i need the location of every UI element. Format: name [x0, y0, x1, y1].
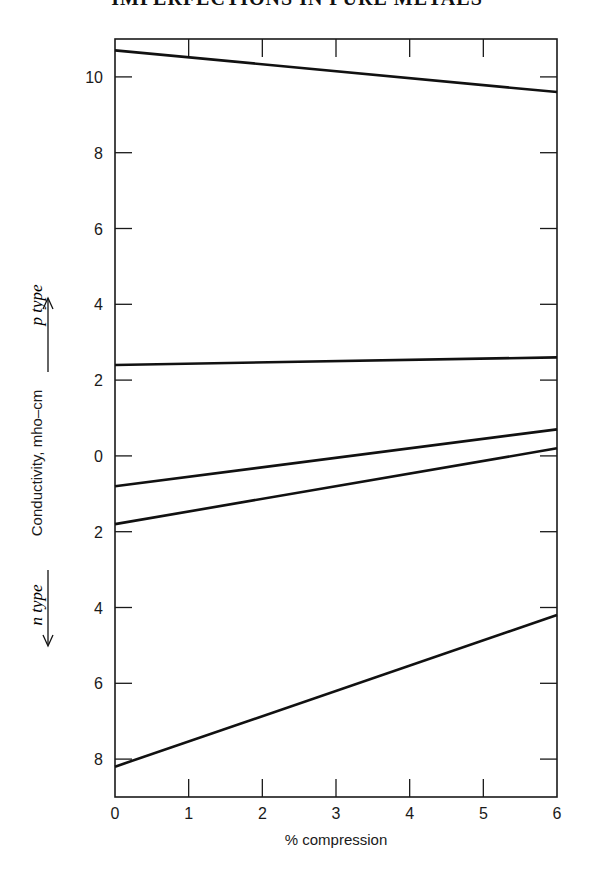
y-tick-label: 4 [94, 600, 103, 617]
y-tick-label: 2 [94, 524, 103, 541]
y-tick-label: 8 [94, 751, 103, 768]
plot-frame [115, 39, 557, 797]
data-line [115, 357, 557, 365]
n-type-label: n type [27, 584, 46, 626]
x-tick-label: 0 [111, 805, 120, 822]
y-tick-label: 10 [85, 69, 103, 86]
data-line [115, 429, 557, 486]
y-tick-label: 8 [94, 145, 103, 162]
x-tick-label: 4 [405, 805, 414, 822]
data-line [115, 615, 557, 767]
p-type-label: p type [27, 284, 46, 327]
y-tick-label: 2 [94, 372, 103, 389]
x-tick-label: 3 [332, 805, 341, 822]
y-tick-label: 6 [94, 675, 103, 692]
y-tick-label: 4 [94, 296, 103, 313]
x-tick-label: 6 [553, 805, 562, 822]
y-axis-title: Conductivity, mho–cm [28, 390, 45, 536]
y-tick-label: 6 [94, 221, 103, 238]
x-tick-label: 1 [184, 805, 193, 822]
x-tick-label: 2 [258, 805, 267, 822]
x-tick-label: 5 [479, 805, 488, 822]
y-tick-label: 0 [94, 448, 103, 465]
x-axis-title: % compression [285, 831, 388, 848]
conductivity-chart: 012345610864202468% compressionConductiv… [0, 0, 594, 870]
data-line [115, 448, 557, 524]
